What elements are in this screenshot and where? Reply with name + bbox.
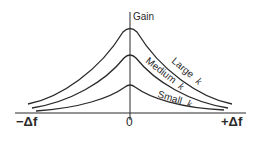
- k-symbol: k: [176, 80, 187, 92]
- x-tick-zero: 0: [126, 115, 133, 129]
- gain-vs-frequency-diagram: Gain −Δf 0 +Δf Large k Medium k Small k: [0, 0, 258, 157]
- y-axis-label: Gain: [133, 11, 154, 22]
- curve-label-small-k: Small k: [156, 88, 193, 109]
- x-tick-negative-delta-f: −Δf: [16, 114, 38, 129]
- k-symbol: k: [194, 75, 205, 87]
- x-tick-positive-delta-f: +Δf: [221, 114, 243, 129]
- svg-text:Small k: Small k: [156, 88, 193, 109]
